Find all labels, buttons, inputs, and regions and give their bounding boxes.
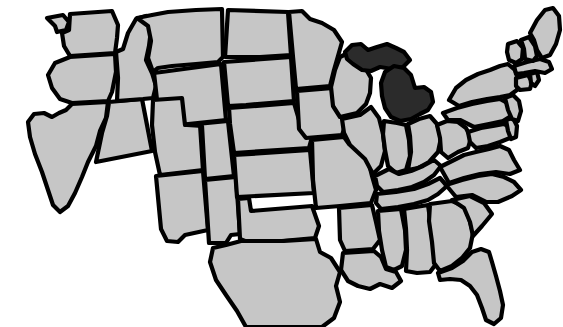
state-north-dakota[interactable] — [225, 10, 291, 57]
state-kansas[interactable] — [234, 150, 314, 197]
state-oregon[interactable] — [48, 54, 116, 103]
us-map-figure — [0, 0, 563, 327]
state-montana[interactable] — [137, 9, 223, 72]
state-texas[interactable] — [210, 239, 340, 327]
us-states-map — [0, 0, 563, 327]
state-south-dakota[interactable] — [224, 57, 294, 106]
state-indiana[interactable] — [383, 121, 410, 173]
michigan-lower-peninsula — [381, 66, 433, 121]
state-arkansas[interactable] — [339, 205, 380, 251]
state-washington[interactable] — [47, 11, 118, 56]
state-arizona[interactable] — [156, 171, 208, 242]
state-oklahoma[interactable] — [238, 198, 319, 243]
state-rhode-island[interactable] — [530, 72, 539, 86]
